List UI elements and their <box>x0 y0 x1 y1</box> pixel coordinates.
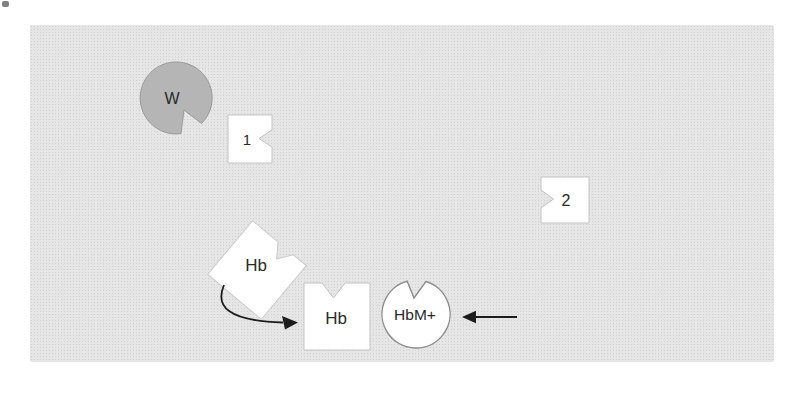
hb-tilted-square-label: Hb <box>245 256 267 275</box>
hb-square-label: Hb <box>325 309 347 328</box>
scanned-diagram-page: W 1 2 Hb Hb HbM+ <box>0 0 793 394</box>
hbm-circle-label: HbM+ <box>394 306 436 323</box>
square-1-label: 1 <box>243 131 251 148</box>
square-2-label: 2 <box>562 192 571 209</box>
w-circle-label: W <box>164 90 180 107</box>
diagram-shapes-layer: W 1 2 Hb Hb HbM+ <box>0 0 793 394</box>
left-arrow <box>462 311 517 323</box>
